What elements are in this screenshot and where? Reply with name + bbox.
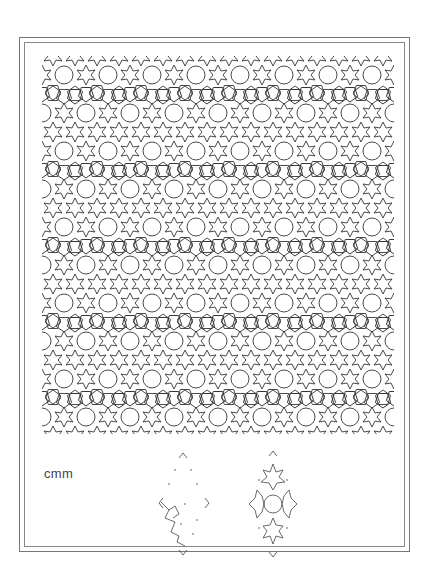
translation-unit-diagram: [245, 450, 301, 558]
symmetry-group-label: cmm: [44, 466, 73, 481]
tessellation-pattern: [42, 56, 394, 434]
fundamental-region-diagram: [155, 450, 211, 558]
